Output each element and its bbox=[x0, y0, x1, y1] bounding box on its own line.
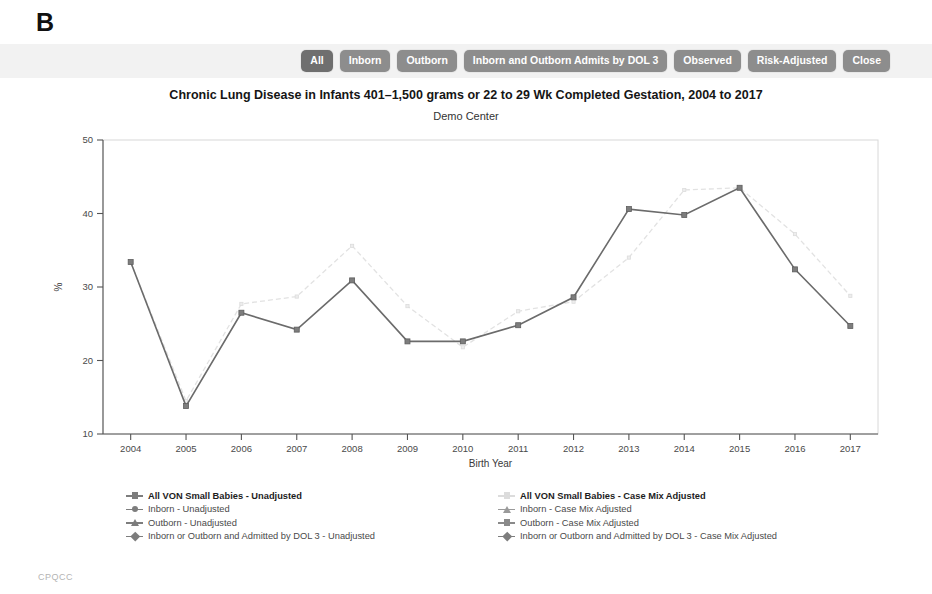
data-point-unadj-2008 bbox=[350, 278, 355, 283]
legend-entry[interactable]: Outborn - Case Mix Adjusted bbox=[498, 516, 870, 530]
legend-label: Outborn - Unadjusted bbox=[148, 518, 237, 528]
legend-label: Inborn - Unadjusted bbox=[148, 504, 230, 514]
legend-column-1: All VON Small Babies - UnadjustedInborn … bbox=[126, 489, 498, 545]
legend-entry[interactable]: All VON Small Babies - Case Mix Adjusted bbox=[498, 489, 870, 503]
x-tick-label-2007: 2007 bbox=[286, 443, 307, 454]
legend-label: Inborn or Outborn and Admitted by DOL 3 … bbox=[148, 531, 375, 541]
data-point-unadj-2004 bbox=[128, 260, 133, 265]
legend-label: Inborn - Case Mix Adjusted bbox=[520, 504, 632, 514]
y-tick-label-30: 30 bbox=[82, 281, 93, 292]
panel-letter: B bbox=[36, 8, 54, 37]
x-tick-label-2006: 2006 bbox=[231, 443, 252, 454]
y-tick-label-10: 10 bbox=[82, 428, 93, 439]
legend-entry[interactable]: Inborn or Outborn and Admitted by DOL 3 … bbox=[126, 530, 498, 544]
y-axis-title: % bbox=[53, 282, 64, 291]
series-line-case-mix-adjusted bbox=[131, 188, 851, 401]
data-point-adj-2009 bbox=[406, 305, 409, 308]
toolbar-button-all[interactable]: All bbox=[301, 50, 332, 72]
data-point-unadj-2013 bbox=[626, 207, 631, 212]
chart-legend: All VON Small Babies - UnadjustedInborn … bbox=[126, 489, 886, 545]
x-tick-label-2010: 2010 bbox=[452, 443, 473, 454]
x-tick-label-2005: 2005 bbox=[175, 443, 196, 454]
legend-marker-square-icon bbox=[498, 517, 515, 528]
legend-label: All VON Small Babies - Unadjusted bbox=[148, 491, 302, 501]
data-point-adj-2016 bbox=[793, 232, 796, 235]
data-point-unadj-2016 bbox=[792, 267, 797, 272]
chart-toolbar: AllInbornOutbornInborn and Outborn Admit… bbox=[0, 44, 932, 78]
toolbar-button-inborn[interactable]: Inborn bbox=[340, 50, 391, 72]
x-tick-label-2016: 2016 bbox=[784, 443, 805, 454]
x-tick-label-2011: 2011 bbox=[508, 443, 528, 454]
chart-title: Chronic Lung Disease in Infants 401–1,50… bbox=[0, 88, 932, 102]
data-point-adj-2012 bbox=[572, 300, 575, 303]
data-point-adj-2013 bbox=[627, 256, 630, 259]
x-tick-label-2013: 2013 bbox=[618, 443, 639, 454]
legend-entry[interactable]: All VON Small Babies - Unadjusted bbox=[126, 489, 498, 503]
y-tick-label-50: 50 bbox=[82, 134, 93, 145]
legend-entry[interactable]: Inborn or Outborn and Admitted by DOL 3 … bbox=[498, 530, 870, 544]
x-tick-label-2015: 2015 bbox=[729, 443, 750, 454]
legend-marker-diamond-icon bbox=[126, 531, 143, 542]
legend-column-2: All VON Small Babies - Case Mix Adjusted… bbox=[498, 489, 870, 545]
legend-entry[interactable]: Outborn - Unadjusted bbox=[126, 516, 498, 530]
legend-marker-triangle-icon bbox=[126, 517, 143, 528]
legend-entry[interactable]: Inborn - Unadjusted bbox=[126, 503, 498, 517]
data-point-adj-2004 bbox=[129, 260, 132, 263]
data-point-unadj-2006 bbox=[239, 310, 244, 315]
x-tick-label-2012: 2012 bbox=[563, 443, 584, 454]
legend-marker-triangle-icon bbox=[498, 504, 515, 515]
x-tick-label-2004: 2004 bbox=[120, 443, 141, 454]
data-point-adj-2014 bbox=[683, 188, 686, 191]
toolbar-button-observed[interactable]: Observed bbox=[674, 50, 740, 72]
legend-label: All VON Small Babies - Case Mix Adjusted bbox=[520, 491, 706, 501]
y-tick-label-40: 40 bbox=[82, 208, 93, 219]
data-point-unadj-2011 bbox=[516, 323, 521, 328]
data-point-unadj-2015 bbox=[737, 185, 742, 190]
legend-entry[interactable]: Inborn - Case Mix Adjusted bbox=[498, 503, 870, 517]
legend-marker-diamond-icon bbox=[498, 531, 515, 542]
plot-panel-border bbox=[103, 140, 878, 434]
data-point-adj-2010 bbox=[461, 346, 464, 349]
data-point-unadj-2012 bbox=[571, 295, 576, 300]
data-point-adj-2007 bbox=[295, 295, 298, 298]
y-tick-label-20: 20 bbox=[82, 355, 93, 366]
data-point-unadj-2005 bbox=[184, 404, 189, 409]
toolbar-button-outborn[interactable]: Outborn bbox=[397, 50, 456, 72]
x-tick-label-2014: 2014 bbox=[674, 443, 695, 454]
data-point-unadj-2009 bbox=[405, 339, 410, 344]
data-point-unadj-2010 bbox=[460, 339, 465, 344]
legend-marker-square-icon bbox=[126, 490, 143, 501]
data-point-adj-2008 bbox=[351, 244, 354, 247]
legend-marker-square-icon bbox=[498, 490, 515, 501]
x-tick-label-2009: 2009 bbox=[397, 443, 418, 454]
toolbar-button-close[interactable]: Close bbox=[843, 50, 890, 72]
data-point-adj-2011 bbox=[517, 310, 520, 313]
toolbar-button-risk-adjusted[interactable]: Risk-Adjusted bbox=[748, 50, 837, 72]
toolbar-button-inborn-and-outborn-admits-by-dol-3[interactable]: Inborn and Outborn Admits by DOL 3 bbox=[464, 50, 668, 72]
data-point-unadj-2007 bbox=[294, 327, 299, 332]
x-axis-title: Birth Year bbox=[469, 458, 513, 469]
x-tick-label-2008: 2008 bbox=[342, 443, 363, 454]
data-point-adj-2015 bbox=[738, 186, 741, 189]
footer-logo: CPQCC bbox=[38, 572, 73, 582]
x-tick-label-2017: 2017 bbox=[840, 443, 861, 454]
series-line-unadjusted bbox=[131, 188, 851, 406]
legend-label: Inborn or Outborn and Admitted by DOL 3 … bbox=[520, 531, 777, 541]
data-point-adj-2017 bbox=[849, 294, 852, 297]
data-point-unadj-2014 bbox=[682, 212, 687, 217]
chart-subtitle: Demo Center bbox=[0, 110, 932, 122]
data-point-adj-2005 bbox=[184, 399, 187, 402]
data-point-unadj-2017 bbox=[848, 323, 853, 328]
legend-label: Outborn - Case Mix Adjusted bbox=[520, 518, 639, 528]
legend-marker-circle-icon bbox=[126, 504, 143, 515]
data-point-adj-2006 bbox=[240, 302, 243, 305]
